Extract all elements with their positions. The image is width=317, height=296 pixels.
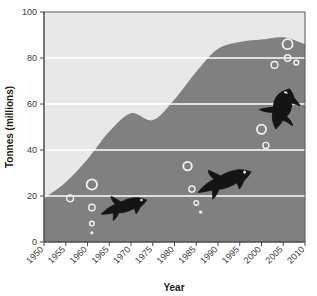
x-tick-label: 1970: [111, 244, 132, 265]
x-tick-label: 1995: [220, 244, 241, 265]
y-tick-labels: 020406080100: [22, 7, 37, 247]
x-tick-label: 1980: [155, 244, 176, 265]
y-tick-label: 40: [27, 145, 37, 155]
bubble-marker: [199, 210, 202, 213]
x-tick-label: 2005: [263, 244, 284, 265]
x-tick-label: 1975: [133, 244, 154, 265]
y-axis-title: Tonnes (millions): [4, 86, 15, 168]
x-tick-label: 2010: [285, 244, 306, 265]
x-axis-title: Year: [163, 282, 184, 293]
x-tick-label: 1990: [198, 244, 219, 265]
y-tick-label: 100: [22, 7, 37, 17]
x-tick-label: 1965: [89, 244, 110, 265]
x-tick-label: 1955: [46, 244, 67, 265]
chart-figure: 020406080100 195019551960196519701975198…: [0, 0, 317, 296]
y-tick-label: 20: [27, 191, 37, 201]
area-chart: 020406080100 195019551960196519701975198…: [0, 0, 317, 296]
x-tick-labels: 1950195519601965197019751980198519901995…: [24, 244, 306, 265]
x-tick-label: 2000: [242, 244, 263, 265]
x-tick-label: 1985: [176, 244, 197, 265]
x-tick-label: 1950: [24, 244, 45, 265]
y-tick-label: 60: [27, 99, 37, 109]
x-tick-label: 1960: [68, 244, 89, 265]
y-tick-label: 80: [27, 53, 37, 63]
bubble-marker: [90, 231, 93, 234]
